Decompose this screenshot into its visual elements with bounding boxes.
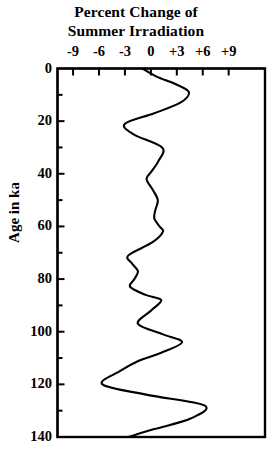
irradiation-curve — [102, 69, 207, 438]
plot-frame-overlay — [58, 69, 266, 438]
plot-area — [0, 0, 272, 456]
chart-root: Percent Change of Summer Irradiation Age… — [0, 0, 272, 456]
plot-frame — [58, 69, 266, 438]
